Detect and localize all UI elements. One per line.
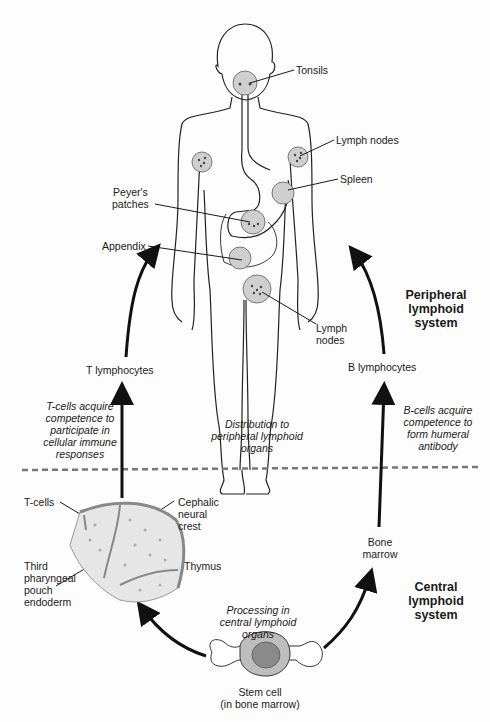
- lymphoid-organs: [192, 71, 308, 303]
- tonsils-organ: [233, 71, 257, 95]
- label-central-lymphoid-system: Central lymphoid system: [398, 580, 474, 622]
- arrow-bm-to-b: [379, 390, 384, 527]
- arrow-stem-to-thymus: [142, 608, 206, 656]
- label-peyers-patches: Peyer's patches: [112, 186, 149, 210]
- annotation-t-cells-competence: T-cells acquire competence to participat…: [20, 400, 140, 460]
- label-bone-marrow: Bone marrow: [360, 536, 400, 560]
- label-peripheral-lymphoid-system: Peripheral lymphoid system: [398, 288, 474, 330]
- lymph-node-right-arm: [288, 147, 308, 167]
- appendix-organ: [229, 247, 251, 269]
- label-appendix: Appendix: [102, 240, 146, 252]
- label-t-lymphocytes: T lymphocytes: [86, 364, 154, 376]
- label-t-cells: T-cells: [24, 496, 54, 508]
- arrow-t-to-peripheral: [126, 250, 155, 357]
- label-tonsils: Tonsils: [296, 64, 328, 76]
- lymph-node-left-arm: [192, 152, 212, 172]
- arrow-b-to-peripheral: [354, 252, 384, 354]
- spleen-organ: [272, 182, 294, 204]
- label-lymph-nodes-upper: Lymph nodes: [336, 134, 399, 146]
- annotation-b-cells-competence: B-cells acquire competence to form humer…: [396, 404, 480, 452]
- label-cephalic-neural-crest: Cephalic neural crest: [178, 496, 219, 532]
- label-thymus: Thymus: [184, 560, 221, 572]
- label-lymph-nodes-lower: Lymph nodes: [316, 322, 347, 346]
- thymus-illustration: [70, 503, 184, 602]
- arrow-stem-to-bm: [324, 576, 370, 648]
- label-third-pharyngeal-pouch: Third pharyngeal pouch endoderm: [24, 560, 76, 608]
- annotation-processing: Processing in central lymphoid organs: [208, 604, 308, 640]
- annotation-distribution: Distribution to peripheral lymphoid orga…: [200, 418, 314, 454]
- label-spleen: Spleen: [340, 173, 373, 185]
- peyers-patches-organ: [241, 210, 265, 234]
- label-b-lymphocytes: B lymphocytes: [348, 361, 416, 373]
- label-stem-cell: Stem cell (in bone marrow): [210, 686, 310, 710]
